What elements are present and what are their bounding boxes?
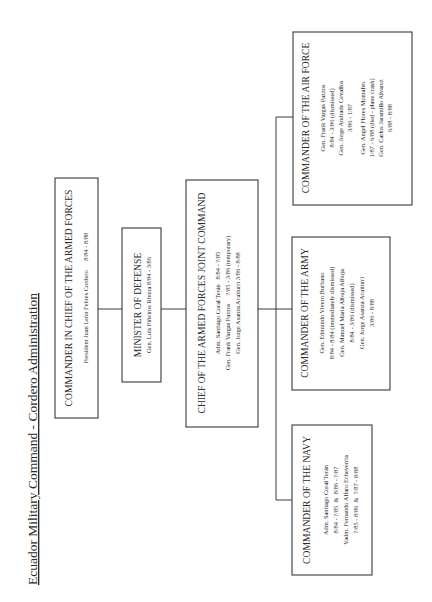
node-line: 3/86 - 8/88 xyxy=(368,299,375,327)
node-line: 8/84 - 8/84 (immediately dismissed) xyxy=(328,267,336,360)
node-heading: COMMANDER OF THE NAVY xyxy=(301,436,312,564)
node-line: Gen. Frank Vargas Pazzos ?/85 - 3/86 (te… xyxy=(224,236,232,371)
node-line: ?/85 - 8/86 & ?/87 - 8/88 xyxy=(352,467,359,534)
node-line: 8/84 - 3/86 (dismissed) xyxy=(348,283,356,342)
node-line: Gen. Manuel María Albuja Albuja xyxy=(338,269,345,357)
node-air-force: COMMANDER OF THE AIR FORCE Gen. Frank Va… xyxy=(293,32,412,205)
node-line: Gen. Edmundo Vivero Burbano xyxy=(318,272,325,353)
node-line: 1/87 - 6/88 (died - plane crash) xyxy=(368,78,376,157)
node-heading: COMMANDER IN CHIEF OF THE ARMED FORCES xyxy=(63,190,74,407)
node-heading: CHIEF OF THE ARMED FORCES JOINT COMMAND xyxy=(196,192,207,413)
node-line: Gen. Frank Vargas Pazzos xyxy=(319,84,326,151)
node-box xyxy=(55,178,98,418)
node-line: Vadm. Fernando Alfaro Echeverría xyxy=(342,455,349,545)
node-line: Gen. Angel Flores Montalvo xyxy=(359,81,366,154)
node-line: Gen. Luis Piñeiros Rivera 8/84 - 3/86 xyxy=(145,257,152,353)
node-heading: MINISTER OF DEFENSE xyxy=(132,253,143,358)
node-commander-in-chief: COMMANDER IN CHIEF OF THE ARMED FORCES P… xyxy=(55,178,98,418)
node-army: COMMANDER OF THE ARMY Gen. Edmundo Viver… xyxy=(292,237,390,390)
node-line: 3/86 - 1/87 xyxy=(346,103,353,132)
org-chart: Ecuador Military Command - Cordero Admin… xyxy=(0,0,432,602)
node-line: 8/84 - ?/85 & 8/86 - ?/87 xyxy=(332,466,339,534)
node-line: 6/88 - 8/88 xyxy=(386,104,393,132)
node-joint-command: CHIEF OF THE ARMED FORCES JOINT COMMAND … xyxy=(186,180,258,427)
node-minister-of-defense: MINISTER OF DEFENSE Gen. Luis Piñeiros R… xyxy=(122,228,161,382)
node-line: 8/84 - 3/86 (dismissed) xyxy=(328,88,336,147)
node-navy: COMMANDER OF THE NAVY Adm. Santiago Cora… xyxy=(292,425,372,575)
node-line: Gen. Jorge Asanza Acaiturri xyxy=(358,277,365,349)
node-line: Gen. Jorge Andrade Cevallos xyxy=(337,80,344,155)
node-box xyxy=(293,32,412,205)
node-heading: COMMANDER OF THE AIR FORCE xyxy=(300,43,311,194)
node-line: President Juan León Febres Cordero 8/84 … xyxy=(82,233,89,364)
node-line: Gen. Carlos Jaramillo Alvarez xyxy=(377,79,384,157)
node-line: Adm. Santiago Coral Terán 8/84 - ?/85 xyxy=(214,252,221,355)
node-line: Gen. Jorge Asanza Acaiturri 3/86 - 8/88 xyxy=(234,252,241,354)
node-line: Adm. Santiago Coral Terán xyxy=(322,464,329,535)
node-heading: COMMANDER OF THE ARMY xyxy=(299,248,310,378)
chart-title: Ecuador Military Command - Cordero Admin… xyxy=(25,293,40,585)
